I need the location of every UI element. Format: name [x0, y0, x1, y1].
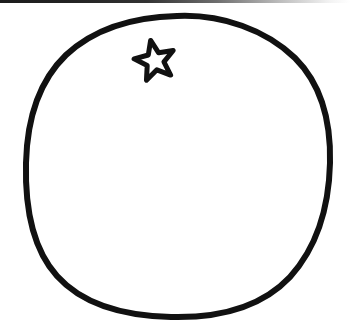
illustration-canvas: Hand-drawn citrus fruit line art orange … — [0, 0, 350, 331]
fruit-outline — [26, 16, 330, 317]
fruit-line-art-svg — [0, 0, 350, 331]
